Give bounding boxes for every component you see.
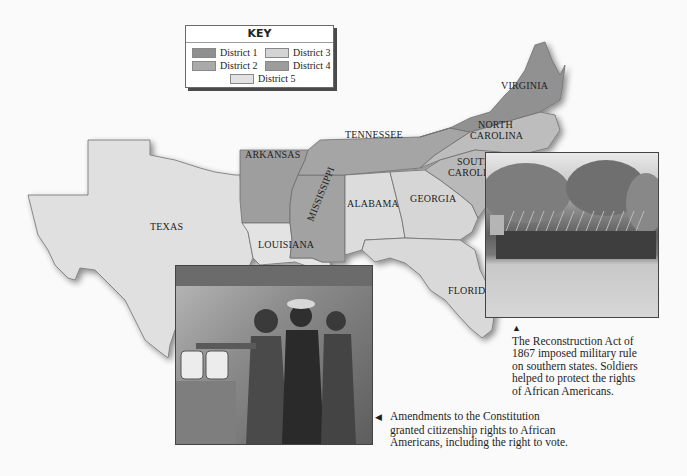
key-title: KEY bbox=[186, 26, 333, 43]
voting-illustration bbox=[175, 265, 373, 445]
district-3-swatch bbox=[265, 48, 289, 58]
left-triangle-icon: ◀ bbox=[375, 410, 390, 424]
caption-line: 1867 imposed military rule bbox=[512, 347, 687, 360]
caption-line: The Reconstruction Act of bbox=[512, 335, 687, 348]
caption-line: Americans, including the right to vote. bbox=[375, 436, 675, 449]
key-label: District 1 bbox=[220, 47, 258, 58]
label-tennessee: TENNESSEE bbox=[345, 129, 403, 140]
label-virginia: VIRGINIA bbox=[501, 80, 549, 91]
district-4-swatch bbox=[265, 61, 289, 71]
key-label: District 4 bbox=[293, 60, 331, 71]
map-key: KEY District 1 District 2 District 3 Dis… bbox=[185, 25, 334, 88]
label-georgia: GEORGIA bbox=[410, 193, 457, 204]
label-north-carolina-line1: NORTH bbox=[478, 119, 513, 130]
label-texas: TEXAS bbox=[150, 221, 183, 232]
label-alabama: ALABAMA bbox=[347, 198, 400, 209]
voting-caption: ◀ Amendments to the Constitution granted… bbox=[375, 410, 675, 449]
label-arkansas: ARKANSAS bbox=[245, 149, 301, 160]
key-label: District 2 bbox=[220, 60, 258, 71]
district-5-swatch bbox=[230, 74, 254, 84]
caption-line: granted citizenship rights to African bbox=[375, 424, 675, 437]
key-item-district-4: District 4 bbox=[265, 60, 331, 71]
caption-line: helped to protect the rights bbox=[512, 372, 687, 385]
key-label: District 5 bbox=[258, 73, 296, 84]
soldiers-photograph bbox=[485, 152, 659, 318]
voters-drawing bbox=[176, 266, 372, 444]
district-1-swatch bbox=[192, 48, 216, 58]
caption-line: Amendments to the Constitution bbox=[390, 410, 540, 424]
key-item-district-3: District 3 bbox=[265, 47, 331, 58]
key-item-district-2: District 2 bbox=[192, 60, 258, 71]
up-triangle-icon: ▲ bbox=[512, 322, 687, 335]
label-louisiana: LOUISIANA bbox=[258, 239, 315, 250]
label-north-carolina-line2: CAROLINA bbox=[470, 130, 524, 141]
key-label: District 3 bbox=[293, 47, 331, 58]
key-item-district-5: District 5 bbox=[230, 73, 296, 84]
caption-line: of African Americans. bbox=[512, 385, 687, 398]
caption-line: on southern states. Soldiers bbox=[512, 360, 687, 373]
district-2-swatch bbox=[192, 61, 216, 71]
soldiers-caption: ▲ The Reconstruction Act of 1867 imposed… bbox=[512, 322, 687, 397]
key-item-district-1: District 1 bbox=[192, 47, 258, 58]
soldiers-illustration bbox=[486, 153, 658, 317]
